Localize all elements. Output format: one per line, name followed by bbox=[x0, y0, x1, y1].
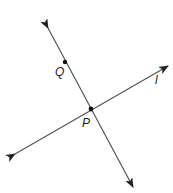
point-q-label: Q bbox=[55, 65, 64, 79]
line-l-label: l bbox=[155, 73, 158, 87]
geometry-diagram: Q P l bbox=[0, 0, 173, 193]
point-q bbox=[63, 60, 67, 64]
point-p bbox=[89, 107, 94, 112]
point-p-label: P bbox=[82, 116, 90, 130]
